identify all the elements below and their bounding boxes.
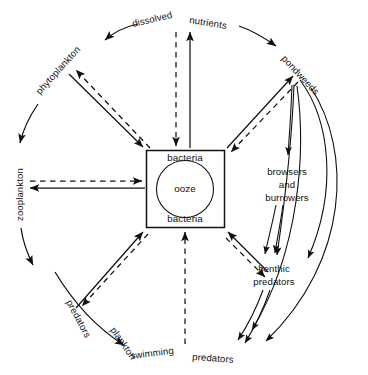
flow-dashed-bacteria-to-plankton: [82, 234, 148, 306]
label-browsers-line1: browsers: [267, 166, 307, 177]
label-nutrients: nutrients: [189, 14, 228, 31]
diagonal-upper-right-flows: [227, 76, 298, 152]
benthic-to-bottom-predators-curves: [238, 290, 270, 343]
diagram-canvas: dissolved nutrients pondweeds phytoplank…: [0, 0, 368, 375]
flow-solid-bacteria-to-pondweeds: [227, 76, 293, 148]
diagonal-upper-left-flows: [69, 70, 150, 148]
diagram-labels: dissolved nutrients pondweeds phytoplank…: [14, 9, 322, 365]
arc-pondweeds-to-bottom-predators: [266, 88, 337, 341]
label-browsers-line3: burrowers: [265, 192, 309, 203]
label-ooze: ooze: [174, 183, 196, 194]
curve-browsers-to-benthic-a: [265, 205, 276, 254]
flow-solid-phytoplankton-to-bacteria: [69, 74, 143, 147]
curve-pondweeds-to-bottom-predators-inner: [252, 86, 301, 330]
curve-browsers-to-benthic-b: [275, 205, 283, 253]
label-dissolved: dissolved: [131, 9, 173, 29]
label-swimming: swimming: [130, 345, 174, 361]
arc-nutrients-to-pondweeds: [239, 26, 276, 46]
diagonal-lower-left-flows: [76, 232, 148, 308]
label-bacteria-bottom: bacteria: [167, 213, 203, 224]
curve-benthic-to-predators-b: [245, 290, 270, 343]
pond-ecosystem-diagram: dissolved nutrients pondweeds phytoplank…: [0, 0, 368, 375]
label-pondweeds: pondweeds: [280, 53, 322, 97]
horizontal-left-flows: [30, 181, 145, 188]
label-bacteria-top: bacteria: [167, 152, 203, 163]
flow-solid-plankton-to-bacteria: [76, 232, 143, 308]
arc-phytoplankton-to-zooplankton: [20, 104, 38, 143]
vertical-top-flows: [176, 32, 190, 148]
label-benthic-line2: predators: [253, 276, 295, 287]
label-zooplankton: zooplankton: [14, 168, 25, 221]
flow-dashed-pondweeds-to-bacteria: [231, 82, 298, 152]
label-predators-bottom: predators: [192, 351, 234, 365]
arc-zooplankton-to-predators: [21, 228, 33, 265]
label-browsers-line2: and: [279, 179, 295, 190]
label-benthic-line1: benthic: [258, 263, 290, 274]
flow-dashed-bacteria-to-phytoplankton: [76, 70, 150, 148]
label-phytoplankton: phytoplankton: [33, 44, 82, 97]
